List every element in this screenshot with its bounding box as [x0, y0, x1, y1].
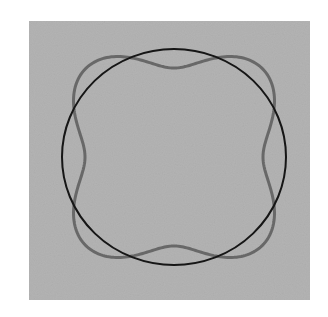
diagram-figure	[0, 0, 328, 317]
gray-panel	[29, 21, 310, 300]
